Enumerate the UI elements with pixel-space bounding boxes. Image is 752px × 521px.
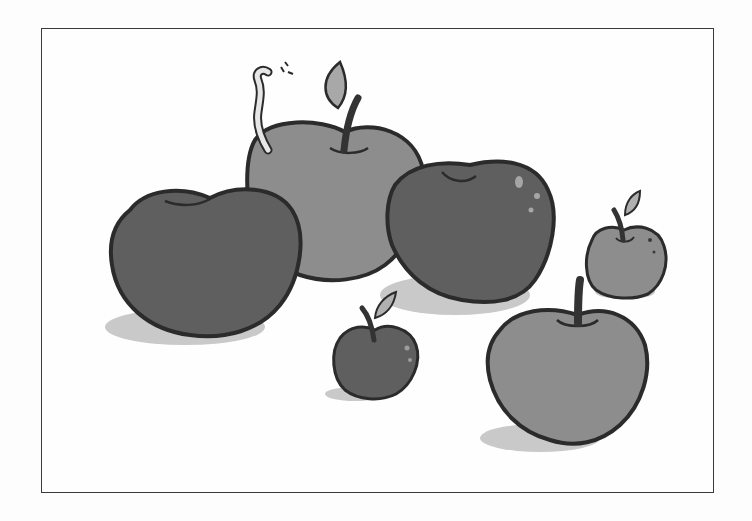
leaf-icon bbox=[326, 62, 346, 108]
apples-illustration bbox=[0, 0, 752, 521]
leaf-icon bbox=[625, 191, 640, 215]
apple-large-left bbox=[111, 189, 301, 336]
apple-small-right bbox=[586, 191, 666, 298]
